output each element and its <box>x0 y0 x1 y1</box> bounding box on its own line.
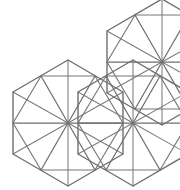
tessellation-cells <box>13 0 180 186</box>
hex-cell-upper-right <box>107 0 180 125</box>
tessellation-canvas <box>0 0 180 190</box>
tessellation-figure <box>0 0 180 190</box>
spoke-segment <box>162 15 180 62</box>
